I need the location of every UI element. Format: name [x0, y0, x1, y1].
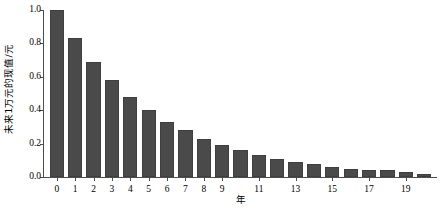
x-axis-title: 年 [44, 192, 437, 206]
y-tick-label: 0.4 [29, 104, 41, 114]
x-tick-mark [94, 177, 95, 181]
bar [178, 130, 192, 177]
bar [307, 164, 321, 177]
x-tick-mark [296, 177, 297, 181]
bar [362, 170, 376, 177]
bar-chart-figure: 未来1万元的现值/元 0.00.20.40.60.81.0 0123456789… [0, 0, 443, 210]
x-tick-mark [185, 177, 186, 181]
bar [68, 38, 82, 177]
bar [270, 159, 284, 177]
bar [123, 97, 137, 177]
y-tick-label: 0.0 [29, 171, 41, 181]
x-tick-mark [204, 177, 205, 181]
y-tick-label: 1.0 [29, 4, 41, 14]
bar [197, 139, 211, 177]
bar [142, 110, 156, 177]
y-axis-line [43, 10, 44, 177]
bar [50, 10, 64, 177]
bar [325, 167, 339, 177]
y-tick-label: 0.2 [29, 138, 41, 148]
y-axis-title: 未来1万元的现值/元 [0, 0, 16, 178]
x-tick-mark [149, 177, 150, 181]
x-tick-mark [75, 177, 76, 181]
x-tick-mark [406, 177, 407, 181]
bar [344, 169, 358, 177]
x-axis-line [43, 177, 437, 178]
x-tick-mark [57, 177, 58, 181]
x-tick-mark [130, 177, 131, 181]
bar [252, 155, 266, 177]
bar [233, 150, 247, 177]
bar [215, 145, 229, 177]
bar [86, 62, 100, 177]
bar [105, 80, 119, 177]
y-axis-title-text: 未来1万元的现值/元 [1, 44, 15, 133]
bar [380, 170, 394, 177]
bar [417, 174, 431, 177]
y-tick-label: 0.6 [29, 71, 41, 81]
x-tick-mark [222, 177, 223, 181]
plot-area: 0.00.20.40.60.81.0 01234567891113151719 [44, 10, 437, 177]
bar [160, 122, 174, 177]
y-tick-label: 0.8 [29, 37, 41, 47]
plot-inner: 0.00.20.40.60.81.0 01234567891113151719 [44, 10, 437, 177]
x-tick-mark [167, 177, 168, 181]
x-tick-mark [369, 177, 370, 181]
bar [399, 172, 413, 177]
x-tick-mark [112, 177, 113, 181]
x-tick-mark [259, 177, 260, 181]
bar [288, 162, 302, 177]
x-tick-mark [332, 177, 333, 181]
